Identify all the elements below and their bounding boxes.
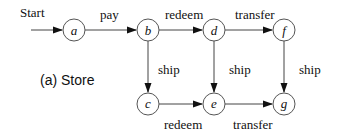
edge-label-transfer-bottom: transfer <box>233 117 273 132</box>
edge-label-ship-de: ship <box>229 62 251 77</box>
node-f: f <box>273 19 295 41</box>
edge-label-ship-fg: ship <box>299 62 321 77</box>
node-e-label: e <box>211 96 217 111</box>
edge-label-pay: pay <box>100 7 119 22</box>
node-a-label: a <box>71 23 78 38</box>
edge-label-transfer-top: transfer <box>235 7 275 22</box>
node-g-label: g <box>281 96 288 111</box>
node-c-label: c <box>145 96 151 111</box>
node-d-label: d <box>211 23 218 38</box>
node-d: d <box>203 19 225 41</box>
node-a: a <box>63 19 85 41</box>
edge-label-redeem-top: redeem <box>165 7 203 22</box>
node-e: e <box>203 93 225 115</box>
node-b-label: b <box>145 23 152 38</box>
node-c: c <box>137 93 159 115</box>
edge-label-ship-bc: ship <box>158 62 180 77</box>
start-label: Start <box>20 5 45 20</box>
edge-label-redeem-bottom: redeem <box>164 117 202 132</box>
node-g: g <box>273 93 295 115</box>
node-b: b <box>137 19 159 41</box>
state-diagram: Start pay redeem transfer ship ship ship… <box>0 0 337 137</box>
diagram-caption: (a) Store <box>40 72 95 88</box>
